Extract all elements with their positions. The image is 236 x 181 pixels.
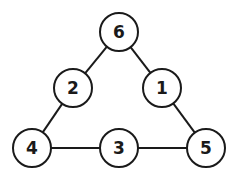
node-bottom-left: 4 <box>13 129 51 167</box>
node-bottom-mid: 3 <box>100 129 138 167</box>
node-right-mid: 1 <box>143 69 181 107</box>
node-label: 6 <box>113 22 125 42</box>
node-bottom-right: 5 <box>187 129 225 167</box>
nodes-group: 621435 <box>13 13 225 167</box>
number-triangle-diagram: 621435 <box>0 0 236 181</box>
edge-left-mid-bottom-left <box>43 104 63 133</box>
edge-top-right-mid <box>131 47 151 73</box>
edge-right-mid-bottom-right <box>173 103 195 132</box>
node-label: 4 <box>26 138 38 158</box>
node-label: 5 <box>200 138 212 158</box>
node-left-mid: 2 <box>54 69 92 107</box>
diagram-svg: 621435 <box>0 0 236 181</box>
edge-top-left-mid <box>85 47 107 74</box>
node-label: 3 <box>113 138 125 158</box>
node-top: 6 <box>100 13 138 51</box>
node-label: 2 <box>67 78 79 98</box>
node-label: 1 <box>156 78 168 98</box>
